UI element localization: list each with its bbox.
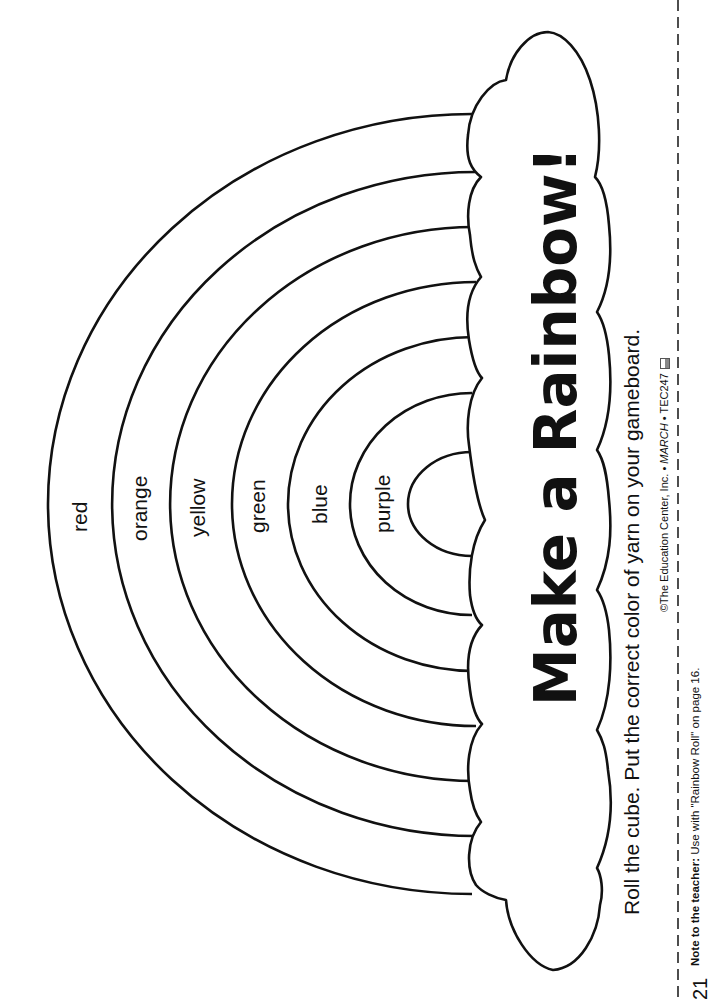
band-label-purple: purple [371,475,395,533]
band-label-red: red [68,502,92,532]
copyright-prefix: ©The Education Center, Inc. • [658,464,670,612]
teacher-note-label: Note to the teacher: [689,858,701,966]
copyright-line: ©The Education Center, Inc. • MARCH • TE… [658,358,670,612]
rainbow-drawing [0,0,728,1001]
teacher-note: Note to the teacher: Use with "Rainbow R… [689,668,701,966]
band-label-blue: blue [308,484,332,524]
arc-red-orange [112,172,476,836]
arc-inner-purple [408,452,472,556]
book-icon [660,358,670,369]
worksheet-title: Make a Rainbow! [522,147,590,706]
band-label-orange: orange [128,476,152,541]
teacher-note-text: Use with "Rainbow Roll" on page 16. [689,668,701,858]
arc-blue-purple [350,393,472,615]
copyright-issue: MARCH [658,423,670,463]
band-label-green: green [246,479,270,533]
worksheet-page: red orange yellow green blue purple Make… [0,0,728,1001]
band-label-yellow: yellow [186,479,210,537]
instruction-text: Roll the cube. Put the correct color of … [620,329,644,915]
page-number: 21 [689,978,712,1000]
copyright-suffix: • TEC247 [658,373,670,423]
